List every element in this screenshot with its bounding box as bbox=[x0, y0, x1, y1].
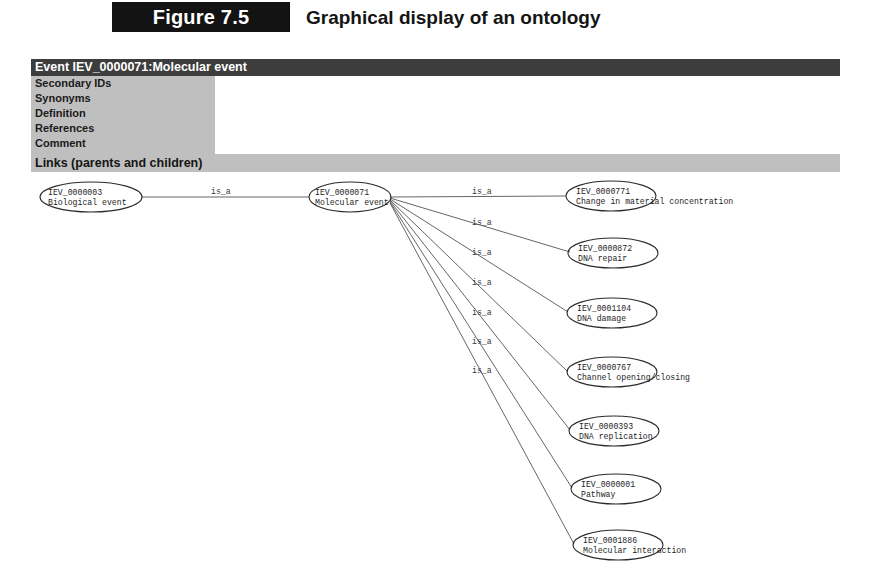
node-ellipse-parent[interactable] bbox=[40, 182, 142, 212]
graph-edges bbox=[142, 196, 574, 544]
node-id-child-3: IEV_0001104 bbox=[577, 304, 631, 313]
ontology-graph-svg: is_a is_a is_a is_a is_a is_a is_a is_a … bbox=[0, 172, 874, 586]
node-name-child-6: Pathway bbox=[581, 490, 615, 499]
field-label-secondary-ids: Secondary IDs bbox=[35, 77, 111, 90]
graph-node-child-3[interactable]: IEV_0001104 DNA damage bbox=[567, 298, 657, 328]
node-name-child-3: DNA damage bbox=[577, 314, 626, 323]
figure-caption: Figure 7.5 Graphical display of an ontol… bbox=[0, 0, 874, 38]
node-ellipse-child-1[interactable] bbox=[566, 181, 656, 211]
node-ellipse-focus[interactable] bbox=[309, 182, 391, 212]
ontology-graph-canvas[interactable]: is_a is_a is_a is_a is_a is_a is_a is_a … bbox=[0, 172, 874, 586]
ontology-browser-window: Event IEV_0000071:Molecular event Second… bbox=[31, 59, 840, 172]
graph-node-parent[interactable]: IEV_0000003 Biological event bbox=[40, 182, 142, 212]
figure-number-label: Figure 7.5 bbox=[112, 2, 290, 32]
node-ellipse-child-6[interactable] bbox=[571, 474, 661, 504]
field-label-comment: Comment bbox=[35, 137, 86, 150]
node-ellipse-child-7[interactable] bbox=[573, 530, 663, 560]
field-label-synonyms: Synonyms bbox=[35, 92, 91, 105]
graph-node-child-6[interactable]: IEV_0000001 Pathway bbox=[571, 474, 661, 504]
graph-node-child-1[interactable]: IEV_0000771 Change in material concentra… bbox=[566, 181, 733, 211]
term-details-panel: Secondary IDs Synonyms Definition Refere… bbox=[31, 76, 840, 154]
node-ellipse-child-3[interactable] bbox=[567, 298, 657, 328]
node-id-parent: IEV_0000003 bbox=[48, 188, 102, 197]
edge-label-child-4: is_a bbox=[472, 278, 492, 287]
node-id-child-1: IEV_0000771 bbox=[576, 187, 630, 196]
node-name-parent: Biological event bbox=[48, 198, 127, 207]
graph-node-child-5[interactable]: IEV_0000393 DNA replication bbox=[569, 416, 659, 446]
node-name-child-4: Channel opening/closing bbox=[577, 373, 690, 382]
field-label-references: References bbox=[35, 122, 94, 135]
graph-node-child-2[interactable]: IEV_0000872 DNA repair bbox=[568, 238, 658, 268]
edge-label-child-3: is_a bbox=[472, 248, 492, 257]
node-id-child-5: IEV_0000393 bbox=[579, 422, 633, 431]
node-ellipse-child-4[interactable] bbox=[567, 357, 657, 387]
graph-node-child-7[interactable]: IEV_0001886 Molecular interaction bbox=[573, 530, 686, 560]
graph-node-child-4[interactable]: IEV_0000767 Channel opening/closing bbox=[567, 357, 690, 387]
field-label-definition: Definition bbox=[35, 107, 86, 120]
node-name-child-7: Molecular interaction bbox=[583, 546, 686, 555]
node-id-child-2: IEV_0000872 bbox=[578, 244, 632, 253]
window-title-label: Event IEV_0000071:Molecular event bbox=[35, 59, 247, 76]
node-name-child-1: Change in material concentration bbox=[576, 197, 733, 206]
edge-label-child-1: is_a bbox=[472, 187, 492, 196]
figure-title-label: Graphical display of an ontology bbox=[306, 3, 601, 32]
node-name-focus: Molecular event bbox=[315, 198, 389, 207]
node-id-child-6: IEV_0000001 bbox=[581, 480, 635, 489]
figure-number-box: Figure 7.5 bbox=[112, 2, 290, 32]
node-name-child-5: DNA replication bbox=[579, 432, 653, 441]
node-ellipse-child-2[interactable] bbox=[568, 238, 658, 268]
edge-label-child-7: is_a bbox=[472, 366, 492, 375]
graph-node-focus[interactable]: IEV_0000071 Molecular event bbox=[309, 182, 391, 212]
edge-label-child-6: is_a bbox=[472, 337, 492, 346]
node-id-child-7: IEV_0001886 bbox=[583, 536, 637, 545]
node-ellipse-child-5[interactable] bbox=[569, 416, 659, 446]
node-id-focus: IEV_0000071 bbox=[315, 188, 369, 197]
node-name-child-2: DNA repair bbox=[578, 254, 627, 263]
graph-edge-labels: is_a is_a is_a is_a is_a is_a is_a is_a bbox=[211, 187, 492, 375]
node-id-child-4: IEV_0000767 bbox=[577, 363, 631, 372]
links-section-label: Links (parents and children) bbox=[35, 155, 202, 171]
edge-label-parent: is_a bbox=[211, 187, 231, 196]
edge-label-child-5: is_a bbox=[472, 308, 492, 317]
edge-focus-to-child-1[interactable] bbox=[390, 196, 566, 197]
links-section-header[interactable]: Links (parents and children) bbox=[31, 154, 840, 172]
window-titlebar: Event IEV_0000071:Molecular event bbox=[31, 59, 840, 76]
edge-label-child-2: is_a bbox=[472, 218, 492, 227]
